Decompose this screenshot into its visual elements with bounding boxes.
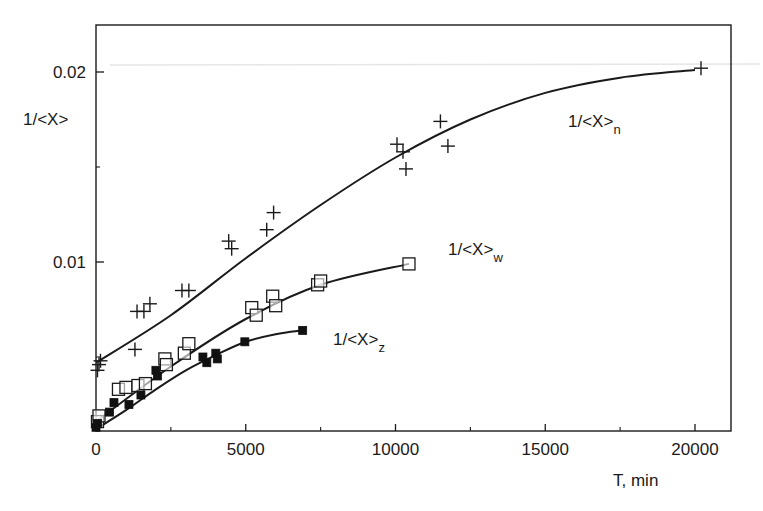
plus-marker — [399, 162, 413, 176]
annotation-z: 1/<X>z — [333, 330, 385, 355]
data-markers — [90, 61, 707, 431]
y-axis-label: 1/<X> — [23, 110, 68, 129]
x-tick-label: 20000 — [671, 440, 718, 459]
chart: 05000100001500020000 0.010.02 T, min 1/<… — [0, 0, 763, 511]
open-square-marker — [315, 275, 327, 287]
plus-marker — [137, 304, 151, 318]
plot-frame — [96, 25, 731, 431]
open-square-marker — [250, 309, 262, 321]
filled-square-marker — [93, 420, 101, 428]
plus-marker — [390, 137, 404, 151]
y-tick-label: 0.01 — [53, 253, 86, 272]
plus-marker — [92, 358, 106, 372]
scan-artifact-line — [110, 64, 760, 65]
open-square-marker — [120, 381, 132, 393]
open-square-marker — [403, 258, 415, 270]
x-tick-label: 10000 — [372, 440, 419, 459]
filled-square-marker — [213, 355, 221, 363]
filled-square-marker — [299, 326, 307, 334]
open-square-marker — [160, 359, 172, 371]
filled-square-marker — [241, 338, 249, 346]
x-axis-label: T, min — [613, 471, 658, 490]
filled-square-marker — [125, 401, 133, 409]
series-annotations: 1/<X>n1/<X>w1/<X>z — [333, 112, 621, 355]
plus-marker — [694, 61, 708, 75]
filled-square-marker — [137, 391, 145, 399]
annotation-n: 1/<X>n — [568, 112, 621, 137]
plus-marker — [222, 234, 236, 248]
plus-marker — [260, 223, 274, 237]
plus-marker — [441, 139, 455, 153]
x-tick-label: 5000 — [227, 440, 265, 459]
plus-marker — [433, 114, 447, 128]
fit-curve-z — [96, 330, 303, 429]
open-square-marker — [139, 378, 151, 390]
plus-marker — [143, 297, 157, 311]
open-square-marker — [270, 300, 282, 312]
plus-marker — [182, 284, 196, 298]
filled-square-marker — [105, 408, 113, 416]
open-square-marker — [183, 338, 195, 350]
x-axis: 05000100001500020000 — [91, 424, 718, 459]
filled-square-marker — [203, 359, 211, 367]
plus-marker — [267, 206, 281, 220]
annotation-w: 1/<X>w — [448, 240, 503, 265]
plus-marker — [128, 342, 142, 356]
filled-square-marker — [110, 399, 118, 407]
y-tick-label: 0.02 — [53, 63, 86, 82]
x-tick-label: 0 — [91, 440, 100, 459]
filled-square-marker — [153, 372, 161, 380]
x-tick-label: 15000 — [522, 440, 569, 459]
plus-marker — [90, 363, 104, 377]
plus-marker — [225, 242, 239, 256]
